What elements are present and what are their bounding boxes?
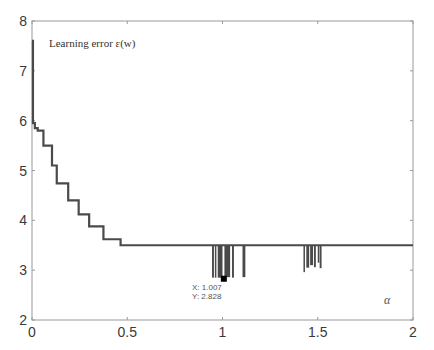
y-tick-label: 6 <box>19 113 27 129</box>
error-dip <box>215 245 217 277</box>
error-dip <box>320 245 322 268</box>
error-dip <box>224 245 230 277</box>
error-dip <box>318 245 320 262</box>
error-dip <box>314 245 316 267</box>
datatip-y: Y: 2.828 <box>192 292 222 301</box>
y-tick-label: 2 <box>19 312 27 328</box>
error-dip <box>232 245 234 277</box>
y-tick-label: 7 <box>19 63 27 79</box>
x-tick-label: 1 <box>219 324 227 340</box>
error-dip <box>212 245 214 277</box>
y-tick-label: 5 <box>19 163 27 179</box>
legend-label: Learning error ε(w) <box>49 37 136 50</box>
x-tick-label: 2 <box>409 324 417 340</box>
error-dip <box>306 245 309 267</box>
error-dip <box>310 245 313 265</box>
learning-error-chart: 2345678 00.511.52 Learning error ε(w) α … <box>0 0 434 350</box>
error-dip <box>218 245 223 277</box>
y-tick-label: 4 <box>19 212 27 228</box>
y-tick-label: 3 <box>19 262 27 278</box>
x-tick-label: 1.5 <box>308 324 328 340</box>
x-tick-label: 0.5 <box>118 324 138 340</box>
datatip-marker[interactable] <box>221 276 227 282</box>
x-tick-label: 0 <box>28 324 36 340</box>
error-dip <box>303 245 305 272</box>
datatip-x: X: 1.007 <box>192 283 222 292</box>
error-dip <box>243 245 246 277</box>
y-tick-label: 8 <box>19 13 27 29</box>
x-axis-label: α <box>384 293 391 307</box>
